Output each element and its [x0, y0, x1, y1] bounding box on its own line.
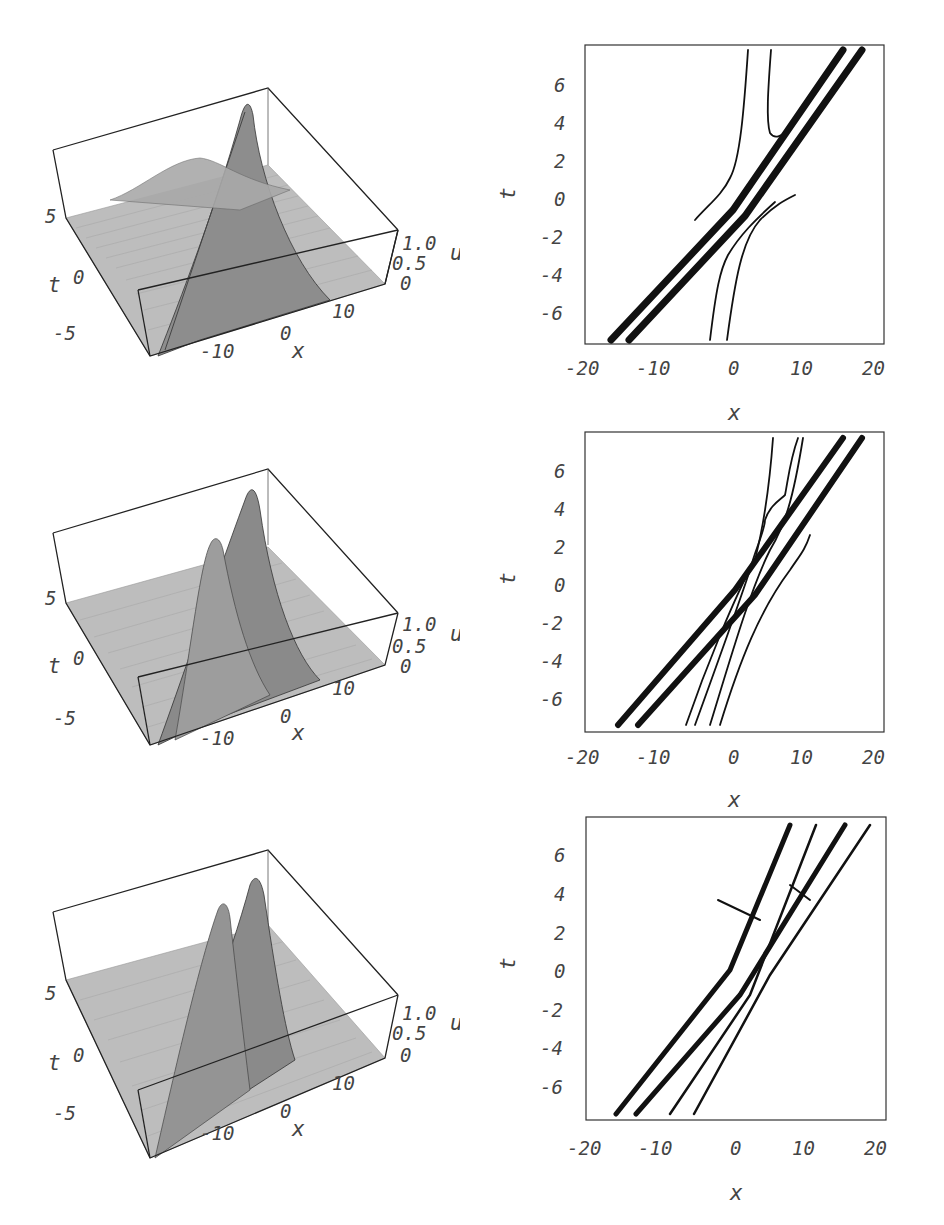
x-tick-10: 10 [332, 300, 355, 322]
y-tick: 0 [554, 188, 565, 210]
x-tick: 20 [864, 1137, 887, 1159]
t-tick-m5: -5 [53, 322, 76, 344]
u-tick-1: 1.0 [402, 1002, 436, 1024]
y-tick: 6 [554, 460, 565, 482]
u-tick-0: 0 [400, 272, 411, 294]
surface-plot-2: 5 0 -5 t -10 0 10 x 1.0 0.5 0 u [40, 455, 460, 815]
x-axis-label: x [729, 1181, 743, 1205]
t-tick-5: 5 [45, 587, 56, 609]
y-tick: 0 [554, 960, 565, 982]
x-tick-m10: -10 [200, 727, 234, 749]
x-tick: -20 [565, 357, 599, 379]
y-tick: 2 [554, 150, 565, 172]
y-tick: -4 [540, 264, 563, 286]
x-tick: 20 [862, 746, 885, 768]
x-axis-label: x [291, 721, 305, 745]
x-tick: -20 [567, 1137, 601, 1159]
t-tick-5: 5 [45, 205, 56, 227]
x-tick: 10 [790, 357, 813, 379]
x-axis-label: x [291, 339, 305, 363]
x-tick-m10: -10 [200, 340, 234, 362]
u-tick-05: 0.5 [392, 252, 426, 274]
surface-plot-3: 5 0 -5 t -10 0 10 x 1.0 0.5 0 u [40, 840, 460, 1200]
t-tick-0: 0 [73, 1044, 84, 1066]
u-tick-05: 0.5 [392, 1022, 426, 1044]
u-axis-label: u [450, 622, 460, 646]
contour-plot-2: 6 4 2 0 -2 -4 -6 t -20 -10 0 10 20 x [490, 420, 920, 820]
x-tick: 20 [862, 357, 885, 379]
u-tick-1: 1.0 [402, 232, 436, 254]
x-tick: -10 [638, 1137, 672, 1159]
u-axis-label: u [450, 241, 460, 265]
x-tick: 0 [730, 1137, 741, 1159]
y-tick: -2 [540, 999, 563, 1021]
t-axis-label: t [496, 572, 520, 585]
y-tick: 6 [554, 74, 565, 96]
x-axis-label: x [727, 788, 741, 812]
y-tick: -4 [540, 1037, 563, 1059]
t-axis-label: t [48, 1051, 61, 1075]
y-tick: -6 [540, 1076, 563, 1098]
x-tick-0: 0 [280, 1100, 291, 1122]
y-tick: -6 [540, 688, 563, 710]
x-tick-0: 0 [280, 705, 291, 727]
t-axis-label: t [496, 957, 520, 970]
x-tick: 10 [792, 1137, 815, 1159]
x-tick-10: 10 [332, 677, 355, 699]
u-tick-05: 0.5 [392, 635, 426, 657]
y-tick: 4 [554, 883, 565, 905]
y-tick: 0 [554, 574, 565, 596]
t-axis-label: t [496, 187, 520, 200]
u-tick-1: 1.0 [402, 613, 436, 635]
y-tick: -4 [540, 650, 563, 672]
contour-plot-1: 6 4 2 0 -2 -4 -6 t -20 -10 0 10 20 x [490, 30, 920, 430]
x-tick-m10: -10 [200, 1122, 234, 1144]
x-tick-0: 0 [280, 322, 291, 344]
y-tick: -2 [540, 226, 563, 248]
y-tick: -2 [540, 612, 563, 634]
t-tick-0: 0 [73, 266, 84, 288]
contour-plot-3: 6 4 2 0 -2 -4 -6 t -20 -10 0 10 20 x [490, 810, 920, 1225]
x-tick: 0 [728, 746, 739, 768]
x-tick: 0 [728, 357, 739, 379]
t-tick-0: 0 [73, 647, 84, 669]
t-axis-label: t [48, 273, 61, 297]
surface-plot-1: 5 0 -5 t -10 0 10 x 1.0 0.5 0 u [40, 40, 460, 400]
x-tick: -10 [636, 357, 670, 379]
u-axis-label: u [450, 1011, 460, 1035]
y-tick: -6 [540, 302, 563, 324]
y-tick: 6 [554, 844, 565, 866]
u-tick-0: 0 [400, 655, 411, 677]
x-tick: -20 [565, 746, 599, 768]
x-tick-10: 10 [332, 1072, 355, 1094]
y-tick: 4 [554, 112, 565, 134]
t-tick-5: 5 [45, 982, 56, 1004]
u-tick-0: 0 [400, 1044, 411, 1066]
y-tick: 2 [554, 922, 565, 944]
x-tick: -10 [636, 746, 670, 768]
y-tick: 4 [554, 498, 565, 520]
x-tick: 10 [790, 746, 813, 768]
t-tick-m5: -5 [53, 707, 76, 729]
t-axis-label: t [48, 654, 61, 678]
y-tick: 2 [554, 536, 565, 558]
x-axis-label: x [291, 1117, 305, 1141]
t-tick-m5: -5 [53, 1102, 76, 1124]
